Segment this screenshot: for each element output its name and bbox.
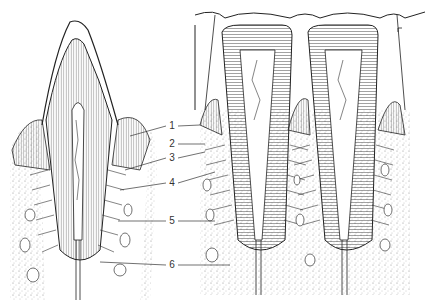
- left-tooth: [10, 21, 157, 300]
- gingiva-papilla-3: [378, 102, 405, 135]
- label-6: 6: [169, 260, 175, 270]
- label-4: 4: [169, 178, 175, 188]
- label-2: 2: [169, 139, 175, 149]
- pulp: [72, 103, 84, 241]
- crown-contour: [195, 12, 425, 18]
- tooth-section-diagram: [0, 0, 431, 306]
- gingiva-right: [112, 118, 150, 171]
- label-1: 1: [169, 121, 175, 131]
- label-3: 3: [169, 153, 175, 163]
- gingiva-left: [12, 120, 50, 170]
- right-teeth: [195, 12, 425, 295]
- label-5: 5: [169, 216, 175, 226]
